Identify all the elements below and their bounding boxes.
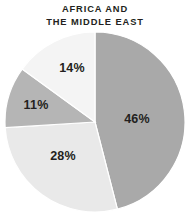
pie-slice-label-14: 14% <box>59 61 85 75</box>
pie-chart-area: 46%28%11%14% <box>4 31 186 213</box>
pie-chart-figure: AFRICA AND THE MIDDLE EAST 46%28%11%14% <box>0 0 190 218</box>
pie-slice-label-46: 46% <box>124 112 150 126</box>
pie-slice-label-28: 28% <box>50 149 76 163</box>
pie-svg <box>4 31 186 213</box>
pie-slice-label-11: 11% <box>24 98 49 112</box>
chart-title: AFRICA AND THE MIDDLE EAST <box>0 3 190 28</box>
pie-slices-group <box>5 32 185 212</box>
